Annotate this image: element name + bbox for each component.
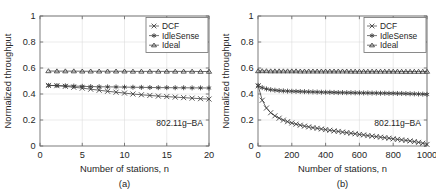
x-tick-label: 20 xyxy=(204,150,214,160)
plot-area-a: 0510152000.20.40.60.81Number of stations… xyxy=(0,0,218,193)
x-tick-label: 10 xyxy=(119,150,129,160)
legend[interactable]: DCFIdleSenseIdeal xyxy=(364,18,426,53)
x-tick-label: 400 xyxy=(318,150,333,160)
panel-caption: (b) xyxy=(337,178,348,189)
y-tick-label: 0.8 xyxy=(241,37,254,47)
y-tick-label: 0 xyxy=(30,141,35,151)
plot-area-b: 0200400600800100000.20.40.60.81Number of… xyxy=(218,0,436,193)
chart-panel-b: 0200400600800100000.20.40.60.81Number of… xyxy=(218,0,436,193)
legend-label: DCF xyxy=(162,21,179,31)
y-tick-label: 0.6 xyxy=(241,63,254,73)
panel-caption: (a) xyxy=(119,178,130,189)
legend-label: IdleSense xyxy=(380,31,418,41)
y-tick-label: 0.2 xyxy=(23,115,36,125)
y-axis-title: Normalized throughput xyxy=(220,33,231,128)
chart-panel-a: 0510152000.20.40.60.81Number of stations… xyxy=(0,0,218,193)
y-tick-label: 0.2 xyxy=(241,115,254,125)
plot-annotation: 802.11g–BA xyxy=(374,118,421,128)
x-tick-label: 600 xyxy=(352,150,367,160)
x-axis-title: Number of stations, n xyxy=(298,163,387,174)
series-ideal xyxy=(46,69,212,73)
x-tick-label: 200 xyxy=(284,150,299,160)
series-ideal xyxy=(256,69,430,73)
y-axis-title: Normalized throughput xyxy=(2,33,13,128)
plot-annotation: 802.11g–BA xyxy=(156,118,203,128)
legend-label: DCF xyxy=(380,21,397,31)
legend-label: Ideal xyxy=(380,40,398,50)
y-tick-label: 0.6 xyxy=(23,63,36,73)
y-tick-label: 0.8 xyxy=(23,37,36,47)
y-tick-label: 1 xyxy=(248,11,253,21)
x-tick-label: 15 xyxy=(162,150,172,160)
x-axis-title: Number of stations, n xyxy=(80,163,169,174)
x-tick-label: 0 xyxy=(37,150,42,160)
y-tick-label: 0.4 xyxy=(23,89,36,99)
legend-label: IdleSense xyxy=(162,31,200,41)
figure-container: 0510152000.20.40.60.81Number of stations… xyxy=(0,0,437,193)
y-tick-label: 0.4 xyxy=(241,89,254,99)
legend[interactable]: DCFIdleSenseIdeal xyxy=(146,18,208,53)
y-tick-label: 1 xyxy=(30,11,35,21)
x-tick-label: 0 xyxy=(255,150,260,160)
series-idlesense xyxy=(256,83,429,97)
x-tick-label: 5 xyxy=(80,150,85,160)
legend-label: Ideal xyxy=(162,40,180,50)
x-tick-label: 1000 xyxy=(417,150,436,160)
x-tick-label: 800 xyxy=(386,150,401,160)
y-tick-label: 0 xyxy=(248,141,253,151)
